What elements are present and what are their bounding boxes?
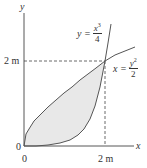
cubic-denominator: 4	[95, 34, 100, 44]
plot-canvas	[0, 0, 147, 168]
parabola-denominator: 2	[131, 69, 136, 79]
parabola-equation-label: x = y2 2	[113, 58, 138, 79]
cubic-numerator: x3	[93, 23, 102, 34]
parabola-fraction: y2 2	[129, 58, 138, 79]
x-tick-2m: 2 m	[98, 154, 113, 164]
cubic-num-exp: 3	[98, 22, 101, 28]
parabola-num-exp: 2	[134, 57, 137, 63]
shaded-region	[24, 61, 105, 146]
parabola-lhs: x =	[113, 63, 127, 74]
origin-y-tick: 0	[16, 142, 21, 152]
cubic-lhs: y =	[77, 28, 91, 39]
cubic-equation-label: y = x3 4	[77, 23, 102, 44]
parabola-numerator: y2	[129, 58, 138, 69]
origin-x-tick: 0	[22, 154, 27, 164]
y-tick-2m: 2 m	[4, 56, 19, 66]
y-axis-label: y	[20, 2, 24, 12]
x-axis-label: x	[136, 141, 140, 151]
cubic-fraction: x3 4	[93, 23, 102, 44]
